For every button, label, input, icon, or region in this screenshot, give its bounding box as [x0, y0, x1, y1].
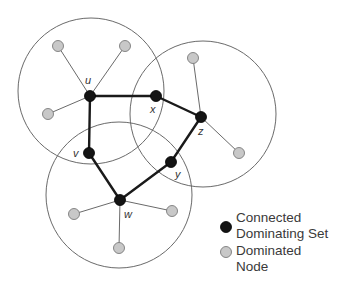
dominated-node-u1 — [53, 41, 64, 52]
node-label-y: y — [174, 168, 182, 180]
dominating-node-y — [166, 157, 177, 168]
edge-w-w3 — [119, 200, 120, 248]
dominated-node-w3 — [114, 243, 125, 254]
dominating-node-v — [84, 148, 95, 159]
black-dot-icon — [221, 222, 232, 233]
edge-u-u3 — [48, 96, 90, 114]
node-label-u: u — [85, 74, 91, 86]
legend: Connected Dominating Set Dominated Node — [221, 210, 329, 274]
node-label-v: v — [73, 147, 80, 159]
legend-item-dominated-node: Dominated Node — [221, 243, 302, 274]
dominating-node-z — [196, 112, 207, 123]
edge-u-u1 — [58, 46, 90, 96]
cds-diagram: uxzvyw Connected Dominating Set Dominate… — [0, 0, 345, 286]
node-label-z: z — [197, 125, 204, 137]
legend-label: Dominated — [236, 243, 301, 258]
dominating-node-w — [115, 195, 126, 206]
gray-dot-icon — [221, 247, 232, 258]
dominated-node-u2 — [120, 41, 131, 52]
edge-y-w — [120, 162, 171, 200]
dominated-node-z2 — [234, 148, 245, 159]
legend-item-connected-dominating-set: Connected Dominating Set — [221, 210, 329, 241]
dominated-node-w2 — [167, 206, 178, 217]
dominated-node-z1 — [188, 53, 199, 64]
dominating-node-u — [85, 91, 96, 102]
edge-v-u — [89, 96, 90, 153]
legend-label: Connected — [236, 210, 301, 225]
dominated-node-w1 — [69, 209, 80, 220]
dominated-node-u3 — [43, 109, 54, 120]
edge-w-w1 — [74, 200, 120, 214]
edge-z-y — [171, 117, 201, 162]
dominating-node-x — [151, 91, 162, 102]
node-label-w: w — [124, 208, 133, 220]
edge-u-u2 — [90, 46, 125, 96]
edge-z-z1 — [193, 58, 201, 117]
legend-label: Node — [236, 259, 268, 274]
legend-label: Dominating Set — [236, 226, 329, 241]
node-label-x: x — [149, 103, 156, 115]
edge-z-z2 — [201, 117, 239, 153]
dominating-nodes — [84, 91, 207, 206]
